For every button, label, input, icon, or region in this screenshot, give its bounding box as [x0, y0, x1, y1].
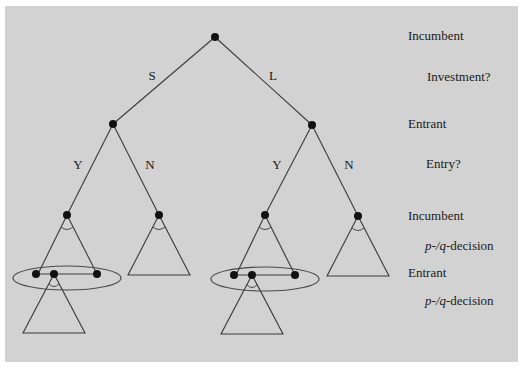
information-set-S: [13, 266, 121, 290]
stage-2-player: Entrant: [408, 117, 446, 130]
game-tree: S L Y N Y N: [0, 0, 522, 373]
node-L-infoset-3: [291, 271, 299, 279]
stage-4-action: p-/q-decision: [425, 294, 494, 307]
stage-3-player: Incumbent: [408, 209, 464, 222]
node-L-Y: [261, 211, 269, 219]
angle-arc-L-entrant: [247, 285, 257, 288]
subtree-S-N-triangle: [128, 215, 190, 275]
angle-arc-S-N: [153, 227, 165, 230]
subtree-L-entrant-triangle: [221, 275, 283, 334]
subtree-S-Y-left: [38, 215, 67, 274]
angle-arc-S-entrant: [49, 284, 59, 287]
subtree-S-entrant-triangle: [23, 274, 85, 333]
node-S-Y: [63, 211, 71, 219]
node-S-infoset-1: [32, 270, 40, 278]
node-S: [109, 120, 117, 128]
node-S-infoset-2: [50, 270, 58, 278]
stage-3-action-italic: p-/q: [425, 238, 446, 253]
stage-4-player: Entrant: [408, 266, 446, 279]
node-L: [308, 121, 316, 129]
angle-arc-L-Y: [259, 227, 271, 230]
subtree-L-Y-left: [236, 215, 265, 275]
node-S-N: [155, 211, 163, 219]
stage-2-action: Entry?: [426, 157, 461, 170]
node-root: [211, 33, 219, 41]
angle-arc-S-Y: [61, 227, 73, 230]
edge-label-S: S: [148, 68, 155, 83]
information-set-L: [211, 267, 319, 291]
angle-arc-L-N: [352, 228, 364, 231]
edge-label-S-N: N: [145, 157, 155, 172]
subtree-S-Y-right: [67, 215, 97, 274]
subtree-L-Y-right: [265, 215, 295, 275]
stage-3-action: p-/q-decision: [425, 239, 494, 252]
edge-root-L: [215, 37, 312, 125]
edge-label-L-Y: Y: [272, 157, 282, 172]
stage-4-action-suffix: -decision: [446, 293, 494, 308]
stage-3-action-suffix: -decision: [446, 238, 494, 253]
node-S-infoset-3: [93, 270, 101, 278]
edge-root-S: [113, 37, 215, 124]
edge-label-L-N: N: [344, 157, 354, 172]
subtree-L-N-triangle: [327, 216, 389, 276]
stage-1-player: Incumbent: [408, 29, 464, 42]
stage-4-action-italic: p-/q: [425, 293, 446, 308]
edge-label-L: L: [269, 68, 277, 83]
node-L-N: [354, 212, 362, 220]
edge-label-S-Y: Y: [73, 157, 83, 172]
stage-1-action: Investment?: [427, 70, 491, 83]
node-L-infoset-2: [248, 271, 256, 279]
node-L-infoset-1: [230, 271, 238, 279]
